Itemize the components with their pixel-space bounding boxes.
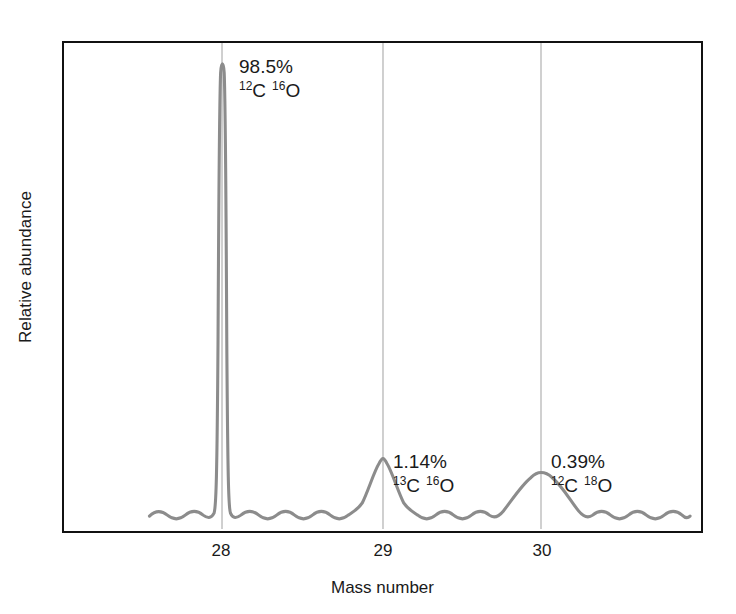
plot-area: [62, 41, 703, 533]
x-axis-title: Mass number: [62, 578, 703, 598]
x-tick-label-30: 30: [512, 541, 572, 561]
mass-spectrum-figure: Relative abundance 98.5% 12C16O 1.14% 13…: [0, 0, 736, 614]
gridlines: [222, 43, 541, 529]
spectrum-trace: [149, 64, 690, 519]
x-tick-label-29: 29: [353, 541, 413, 561]
spectrum-trace-path: [149, 64, 690, 519]
y-axis-title: Relative abundance: [0, 0, 52, 533]
x-tick-label-28: 28: [191, 541, 251, 561]
y-axis-title-text: Relative abundance: [16, 190, 36, 342]
spectrum-plot-svg: [64, 43, 701, 531]
